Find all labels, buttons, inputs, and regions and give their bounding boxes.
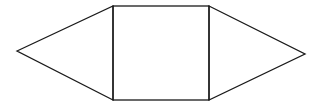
geometric-figure — [0, 0, 317, 107]
right-triangle — [209, 6, 305, 100]
center-square — [113, 6, 209, 100]
left-triangle — [17, 6, 113, 100]
